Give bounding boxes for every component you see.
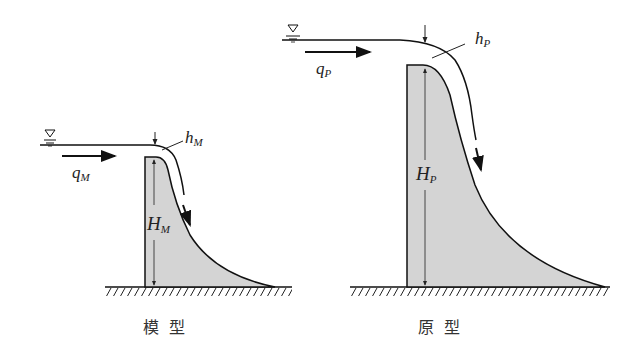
model-caption: 模 型 <box>143 318 185 337</box>
prototype-diagram <box>282 25 610 296</box>
prototype-head-leader <box>432 44 465 58</box>
prototype-head-label: hP <box>475 29 491 49</box>
model-water-level-symbol <box>44 130 56 146</box>
model-discharge-label: qM <box>72 163 91 183</box>
prototype-discharge-label: qP <box>316 59 332 79</box>
prototype-caption: 原 型 <box>418 318 460 337</box>
prototype-nappe-arrow <box>476 148 481 170</box>
model-dam-body <box>145 157 275 287</box>
model-head-label: hM <box>185 128 204 148</box>
spillway-similarity-diagram: qM hM HM qP hP HP 模 型 原 型 <box>0 0 640 363</box>
model-diagram <box>40 130 292 296</box>
model-ground <box>105 287 292 296</box>
prototype-dam-body <box>407 65 605 287</box>
model-head-leader <box>162 141 183 150</box>
prototype-ground <box>350 287 610 296</box>
